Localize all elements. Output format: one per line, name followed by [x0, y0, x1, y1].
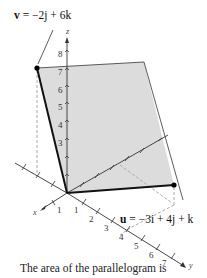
- vector-u-label: u = −3i + 4j + k: [120, 213, 193, 225]
- vector-v-expression: = −2j + 6k: [23, 9, 72, 21]
- z-axis-label: z: [65, 27, 70, 36]
- x-axis-front: [42, 193, 67, 209]
- z-tick-6: 6: [58, 85, 63, 95]
- y-axis-arrow-icon: [180, 262, 186, 268]
- y-tick-5: 5: [134, 241, 139, 251]
- v-endpoint: [34, 65, 39, 70]
- y-tick-1: 1: [74, 205, 79, 215]
- y-axis: [67, 193, 184, 266]
- x-tick-1: 1: [57, 205, 62, 215]
- parallelogram-diagram: 8 7 6 5 4 3 1 1 2 3 4 5 6 7 x y z: [0, 0, 207, 278]
- z-tick-7: 7: [58, 67, 63, 77]
- z-tick-8: 8: [58, 49, 63, 59]
- vector-v-label: v = −2j + 6k: [14, 9, 71, 21]
- y-axis-label: y: [188, 261, 193, 270]
- y-tick-2: 2: [89, 214, 94, 224]
- caption-text: The area of the parallelogram is: [20, 262, 167, 274]
- z-tick-3: 3: [58, 138, 63, 148]
- v-label-leader: [38, 30, 53, 64]
- y-tick-4: 4: [119, 232, 124, 242]
- u-endpoint: [171, 182, 176, 187]
- z-axis-arrow-icon: [65, 37, 69, 43]
- x-axis-arrow-icon: [40, 205, 46, 211]
- z-tick-4: 4: [58, 120, 63, 130]
- x-axis: [15, 163, 67, 193]
- vector-v-name: v: [14, 9, 20, 21]
- y-tick-6: 6: [149, 250, 154, 260]
- y-tick-3: 3: [104, 223, 109, 233]
- vector-u-expression: = −3i + 4j + k: [129, 213, 193, 225]
- z-tick-5: 5: [58, 102, 63, 112]
- x-axis-label: x: [32, 208, 37, 217]
- vector-u-name: u: [120, 213, 126, 225]
